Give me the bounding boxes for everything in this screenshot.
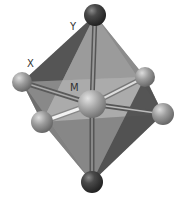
atom-top <box>84 4 106 26</box>
atom-left-front <box>31 111 53 133</box>
atom-bottom <box>81 171 103 193</box>
atom-right-back <box>135 67 155 87</box>
label-m: M <box>70 82 79 93</box>
atom-left-back <box>12 72 32 92</box>
octahedron-diagram: Y X M <box>0 0 178 203</box>
atom-center <box>78 90 106 118</box>
label-y: Y <box>69 21 77 32</box>
atom-right-front <box>152 103 174 125</box>
label-x: X <box>27 58 34 69</box>
